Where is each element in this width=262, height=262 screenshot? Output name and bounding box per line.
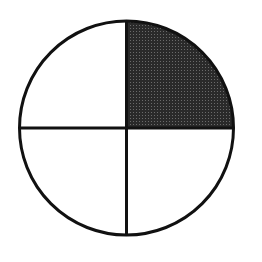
fraction-circle <box>0 0 262 262</box>
fraction-diagram <box>0 0 262 262</box>
